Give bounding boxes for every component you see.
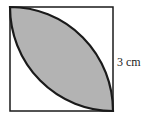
side-length-label: 3 cm bbox=[117, 55, 141, 70]
